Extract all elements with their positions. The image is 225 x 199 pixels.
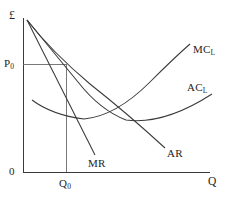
marginal-revenue-label: MR [88, 158, 106, 169]
x-axis-label: Q [208, 176, 217, 188]
marginal-cost-label: MCL [193, 44, 215, 55]
average-cost-subscript: L [203, 86, 208, 95]
y-axis-label: £ [9, 9, 15, 21]
average-revenue-label: AR [167, 148, 183, 159]
quantity-tick-text: Q [59, 177, 67, 189]
marginal-cost-text: MC [193, 43, 211, 55]
average-cost-text: AC [187, 81, 203, 93]
marginal-cost-subscript: L [211, 48, 216, 57]
average-cost-curve [27, 20, 212, 121]
economics-diagram: £ P0 0 Q0 Q MCL ACL AR MR [0, 0, 225, 199]
average-cost-label: ACL [187, 82, 207, 93]
quantity-tick-subscript: 0 [67, 182, 71, 191]
price-tick-subscript: 0 [10, 62, 14, 71]
diagram-canvas [0, 0, 225, 199]
marginal-revenue-curve [27, 20, 95, 155]
origin-label: 0 [9, 166, 15, 177]
price-tick-label: P0 [4, 58, 14, 69]
average-revenue-curve [27, 20, 165, 148]
quantity-tick-label: Q0 [59, 178, 71, 189]
